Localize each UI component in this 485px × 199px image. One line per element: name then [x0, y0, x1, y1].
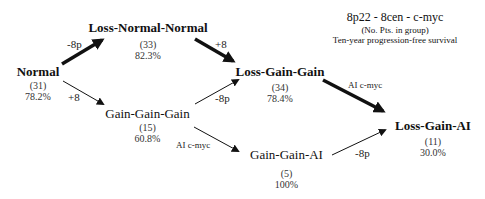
node-survival: 78.4%: [235, 93, 325, 104]
node-count: (33): [88, 39, 208, 50]
node-count: (31): [8, 80, 68, 91]
node-normal: Normal (31) 78.2%: [8, 64, 68, 102]
node-survival: 30.0%: [393, 147, 473, 158]
node-label: Normal: [8, 64, 68, 80]
node-count: (11): [393, 136, 473, 147]
edge-label-normal-loss-normal-normal: -8p: [67, 38, 82, 50]
edge-label-loss-gain-gain-loss-gain-ai: AI c-myc: [348, 80, 382, 90]
edge-label-gain-gain-ai-loss-gain-ai: -8p: [355, 147, 370, 159]
node-label: Loss-Normal-Normal: [88, 20, 208, 36]
node-survival: 100%: [244, 179, 329, 190]
node-label: Loss-Gain-AI: [393, 118, 473, 134]
edge-label-gain-gain-gain-loss-gain-gain: -8p: [215, 92, 230, 104]
node-count: (15): [100, 122, 195, 133]
legend: 8p22 - 8cen - c-myc (No. Pts. in group) …: [305, 10, 485, 45]
node-loss-normal-normal: Loss-Normal-Normal (33) 82.3%: [88, 20, 208, 61]
edge-label-loss-normal-normal-loss-gain-gain: +8: [215, 38, 227, 50]
legend-survival-note: Ten-year progression-free survival: [305, 35, 485, 45]
node-survival: 82.3%: [88, 50, 208, 61]
node-count: (34): [235, 82, 325, 93]
node-label: Gain-Gain-AI: [244, 147, 329, 163]
edge-label-gain-gain-gain-gain-gain-ai: AI c-myc: [176, 140, 210, 150]
edge-label-normal-gain-gain-gain: +8: [68, 91, 80, 103]
node-gain-gain-ai: Gain-Gain-AI (5) 100%: [244, 147, 329, 190]
node-loss-gain-gain: Loss-Gain-Gain (34) 78.4%: [235, 64, 325, 104]
legend-title: 8p22 - 8cen - c-myc: [305, 10, 485, 25]
node-gain-gain-gain: Gain-Gain-Gain (15) 60.8%: [100, 106, 195, 144]
legend-count-note: (No. Pts. in group): [305, 25, 485, 35]
node-label: Loss-Gain-Gain: [235, 64, 325, 80]
node-count: (5): [244, 168, 329, 179]
node-label: Gain-Gain-Gain: [100, 106, 195, 122]
node-loss-gain-ai: Loss-Gain-AI (11) 30.0%: [393, 118, 473, 158]
node-survival: 78.2%: [8, 91, 68, 102]
